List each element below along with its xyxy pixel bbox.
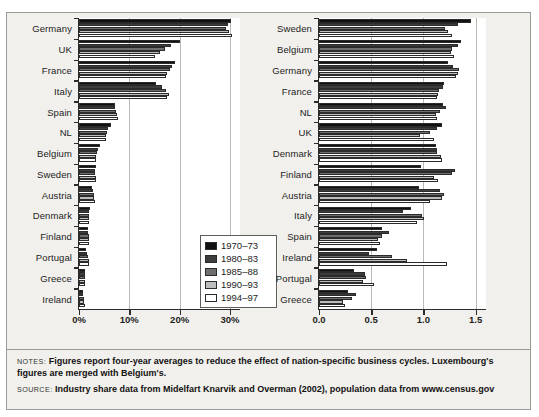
x-axis-tick-label: 20% (170, 314, 189, 325)
figure-container: 0%10%20%30%GermanyUKFranceItalySpainNLBe… (0, 0, 539, 417)
gridline (476, 18, 477, 309)
left-chart-category-label: Italy (54, 85, 72, 96)
right-chart-bar (319, 262, 447, 265)
left-chart-category-label: Greece (40, 272, 72, 283)
right-chart-bar (319, 283, 374, 286)
right-chart-category-label: Germany (272, 64, 312, 75)
left-chart-category-label: UK (59, 44, 72, 55)
left-chart-category-label: Denmark (33, 210, 72, 221)
left-chart-bar (79, 158, 96, 161)
legend-swatch-icon (205, 255, 217, 263)
x-axis-tick-label: 1.0 (417, 314, 430, 325)
left-chart-bar (79, 242, 89, 245)
x-axis-tick-label: 10% (120, 314, 139, 325)
legend-item-label: 1990–93 (221, 279, 258, 290)
x-axis-tick-label: 0.5 (365, 314, 378, 325)
right-chart-category-label: Italy (294, 210, 312, 221)
left-chart-bar (79, 262, 89, 265)
x-axis-tick-label: 0.0 (312, 314, 325, 325)
right-chart-category-label: Spain (287, 231, 312, 242)
right-chart-bar (319, 221, 417, 224)
left-chart-bar (79, 304, 85, 307)
legend-item-label: 1994–97 (221, 292, 258, 303)
right-chart-bar (319, 34, 452, 37)
right-chart-bar (319, 304, 345, 307)
right-chart: 0.00.51.01.5SwedenBelgiumGermanyFranceNL… (256, 0, 528, 310)
right-chart-category-label: UK (299, 127, 312, 138)
right-chart-bar (319, 158, 442, 161)
right-chart-bar (319, 200, 430, 203)
legend-swatch-icon (205, 242, 217, 250)
left-chart-category-label: Sweden (37, 168, 72, 179)
right-chart-category-label: Portugal (276, 272, 312, 283)
left-chart-category-label: Portugal (36, 252, 72, 263)
left-chart-category-label: Ireland (42, 293, 72, 304)
left-chart-category-label: Finland (40, 231, 72, 242)
left-chart-bar (79, 179, 96, 182)
legend-swatch-icon (205, 268, 217, 276)
legend-item-label: 1980–83 (221, 253, 258, 264)
right-chart-category-label: Finland (280, 168, 312, 179)
left-chart-category-label: Spain (47, 106, 72, 117)
right-chart-plot-area: 0.00.51.01.5SwedenBelgiumGermanyFranceNL… (318, 18, 486, 310)
left-chart-category-label: France (42, 64, 72, 75)
right-chart-category-label: Austria (282, 189, 312, 200)
notes-line: NOTES: Figures report four-year averages… (17, 356, 520, 379)
legend-item-label: 1970–73 (221, 240, 258, 251)
right-chart-bar (319, 55, 454, 58)
notes-panel: NOTES: Figures report four-year averages… (6, 350, 531, 410)
legend-swatch-icon (205, 281, 217, 289)
left-chart-category-label: Austria (42, 189, 72, 200)
source-line: SOURCE: Industry share data from Midelfa… (17, 384, 520, 396)
left-chart: 0%10%20%30%GermanyUKFranceItalySpainNLBe… (6, 0, 256, 310)
right-chart-category-label: Belgium (277, 44, 312, 55)
right-chart-category-label: Denmark (273, 148, 312, 159)
right-chart-bar (319, 138, 434, 141)
gridline (180, 18, 181, 309)
left-chart-bar (79, 96, 167, 99)
notes-label: NOTES: (17, 357, 46, 366)
left-chart-bar (79, 55, 155, 58)
right-chart-category-label: France (282, 85, 312, 96)
right-chart-bar (319, 75, 456, 78)
x-axis-tick-label: 0% (72, 314, 86, 325)
left-chart-bar (79, 200, 95, 203)
notes-text: Figures report four-year averages to red… (17, 356, 493, 378)
right-chart-category-label: Ireland (282, 252, 312, 263)
legend-swatch-icon (205, 294, 217, 302)
left-chart-bar (79, 34, 232, 37)
right-chart-bar (319, 242, 380, 245)
left-chart-category-label: Germany (32, 23, 72, 34)
left-chart-bar (79, 283, 85, 286)
right-chart-bar (319, 96, 437, 99)
x-axis-tick-label: 1.5 (469, 314, 482, 325)
x-axis-tick-label: 30% (220, 314, 239, 325)
left-chart-bar (79, 138, 106, 141)
left-chart-category-label: Belgium (37, 148, 72, 159)
source-text: Industry share data from Midelfart Knarv… (55, 384, 494, 394)
left-chart-category-label: NL (60, 127, 72, 138)
right-chart-bar (319, 117, 437, 120)
right-chart-bar (319, 179, 438, 182)
right-chart-category-label: NL (300, 106, 312, 117)
legend-item-label: 1985–88 (221, 266, 258, 277)
left-chart-bar (79, 75, 166, 78)
source-label: SOURCE: (17, 385, 53, 394)
left-chart-bar (79, 117, 118, 120)
right-chart-category-label: Sweden (277, 23, 312, 34)
left-chart-bar (79, 221, 89, 224)
right-chart-category-label: Greece (280, 293, 312, 304)
